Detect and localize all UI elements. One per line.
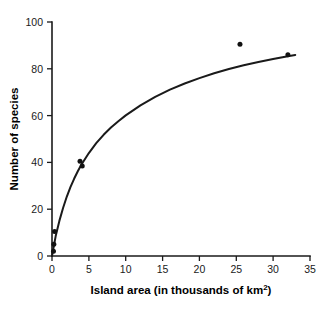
data-point xyxy=(78,159,83,164)
x-axis-title-tail: ) xyxy=(268,284,272,296)
y-tick-label-40: 40 xyxy=(31,156,43,168)
x-tick-label-20: 20 xyxy=(194,263,206,275)
y-tick-label-80: 80 xyxy=(31,63,43,75)
x-tick-label-0: 0 xyxy=(49,263,55,275)
x-tick-label-5: 5 xyxy=(86,263,92,275)
x-axis-title-base: Island area (in thousands of km xyxy=(91,284,264,296)
species-area-plot: 0 20 40 60 80 100 0 5 10 15 20 25 30 35 xyxy=(0,0,333,309)
data-point xyxy=(237,42,242,47)
data-point xyxy=(285,52,290,57)
y-axis-title: Number of species xyxy=(8,88,20,191)
x-tick-label-35: 35 xyxy=(304,263,316,275)
y-tick-label-20: 20 xyxy=(31,203,43,215)
data-point xyxy=(51,249,56,254)
y-tick-label-100: 100 xyxy=(25,16,43,28)
x-tick-label-15: 15 xyxy=(157,263,169,275)
x-tick-label-10: 10 xyxy=(120,263,132,275)
x-tick-label-25: 25 xyxy=(230,263,242,275)
data-point xyxy=(51,242,56,247)
data-point xyxy=(80,163,85,168)
chart-figure: 0 20 40 60 80 100 0 5 10 15 20 25 30 35 xyxy=(0,0,333,309)
y-tick-label-0: 0 xyxy=(37,250,43,262)
x-axis-title: Island area (in thousands of km2) xyxy=(91,283,272,296)
data-point xyxy=(52,229,57,234)
y-tick-label-60: 60 xyxy=(31,110,43,122)
x-tick-label-30: 30 xyxy=(267,263,279,275)
